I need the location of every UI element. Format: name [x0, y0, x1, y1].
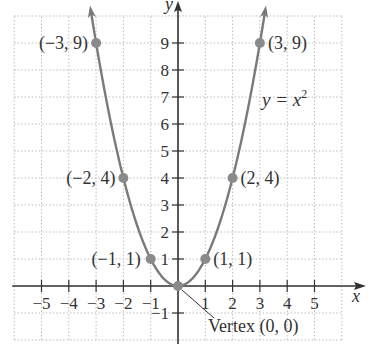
x-tick-label: 3 [256, 294, 265, 313]
data-point-marker [118, 173, 128, 183]
data-point-marker [173, 281, 183, 291]
data-point-marker [91, 38, 101, 48]
x-axis-label: x [351, 286, 360, 306]
x-tick-label: 5 [310, 294, 319, 313]
y-tick-label: 8 [161, 61, 170, 80]
data-point-marker [255, 38, 265, 48]
y-tick-label: 2 [161, 223, 170, 242]
y-tick-label: 4 [161, 169, 170, 188]
point-label: (1, 1) [213, 249, 252, 270]
parabola-chart: x y y = x2 Vertex (0, 0) −5−4−3−2−112345… [0, 0, 375, 352]
x-tick-label: −2 [114, 294, 132, 313]
y-tick-label: −1 [151, 304, 169, 323]
point-label: (2, 4) [241, 168, 280, 189]
x-tick-label: 4 [283, 294, 292, 313]
vertex-annotation: Vertex (0, 0) [208, 316, 298, 337]
x-tick-label: 1 [201, 294, 210, 313]
x-tick-label: −4 [60, 294, 79, 313]
y-axis-label: y [163, 0, 173, 14]
x-tick-label: −5 [32, 294, 50, 313]
y-tick-label: 7 [161, 88, 170, 107]
data-point-marker [146, 254, 156, 264]
point-label: (−1, 1) [92, 249, 141, 270]
equation-exponent: 2 [301, 87, 307, 101]
point-label: (−2, 4) [66, 168, 115, 189]
data-point-marker [228, 173, 238, 183]
y-tick-label: 3 [161, 196, 170, 215]
point-label: (−3, 9) [39, 33, 88, 54]
y-tick-label: 1 [161, 250, 170, 269]
y-tick-label: 6 [161, 115, 170, 134]
y-tick-label: 5 [161, 142, 170, 161]
data-point-marker [200, 254, 210, 264]
x-tick-label: 2 [228, 294, 237, 313]
equation-label: y = x2 [260, 87, 307, 110]
x-tick-label: −3 [87, 294, 105, 313]
point-label: (3, 9) [268, 33, 307, 54]
y-tick-label: 9 [161, 34, 170, 53]
